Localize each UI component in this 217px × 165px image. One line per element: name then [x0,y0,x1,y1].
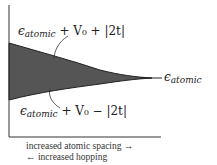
caption-hopping: ← increased hopping [26,152,107,162]
upper-leader-line [54,36,68,59]
caption-spacing: increased atomic spacing → [26,141,133,151]
epsilon-symbol: ϵ [20,104,27,118]
upper-band-label: ϵatomic + V₀ + |2t| [18,24,125,38]
epsilon-symbol: ϵ [18,24,25,38]
atomic-subscript: atomic [27,109,58,119]
lower-band-label: ϵatomic + V₀ − |2t| [20,104,127,118]
upper-band-expression: + V₀ + |2t| [56,24,125,38]
atomic-level-label: ϵatomic [164,70,202,84]
lower-band-expression: + V₀ − |2t| [58,104,127,118]
band-region [9,43,152,100]
atomic-subscript: atomic [25,29,56,39]
atomic-subscript: atomic [171,75,202,85]
epsilon-symbol: ϵ [164,70,171,84]
